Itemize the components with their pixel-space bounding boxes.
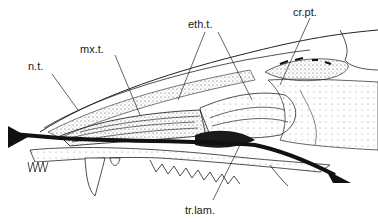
label-mx-t: mx.t.	[80, 43, 104, 55]
label-cr-pt: cr.pt.	[293, 6, 317, 18]
label-n-t: n.t.	[28, 60, 43, 72]
skull-section-figure: n.t. mx.t. eth.t. cr.pt. tr.lam.	[0, 0, 378, 222]
skull-illustration	[0, 0, 378, 222]
airflow-arrow-tail	[8, 126, 28, 148]
palate	[30, 148, 330, 172]
cribriform-plate	[265, 59, 348, 81]
label-eth-t: eth.t.	[188, 18, 212, 30]
label-tr-lam: tr.lam.	[185, 204, 215, 216]
